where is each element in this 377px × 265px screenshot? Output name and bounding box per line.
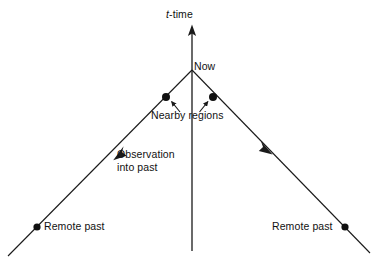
- lightcone-diagram: t-time Now Nearby regions Observationint…: [0, 0, 377, 265]
- remote-past-right-dot: [341, 223, 348, 230]
- observation-into-past-label: Observationinto past: [117, 148, 175, 173]
- apex-label-now: Now: [194, 60, 215, 73]
- axis-suffix: -time: [169, 8, 193, 20]
- remote-past-left-dot: [33, 223, 40, 230]
- nearby-regions-label: Nearby regions: [151, 109, 224, 122]
- nearby-region-right-dot: [209, 93, 217, 101]
- remote-past-right-label: Remote past: [272, 220, 333, 233]
- axis-title-t-time: t-time: [166, 8, 193, 21]
- nearby-region-left-dot: [162, 93, 170, 101]
- remote-past-left-label: Remote past: [44, 220, 105, 233]
- observation-label-line1: Observation: [117, 148, 175, 160]
- observation-label-line2: into past: [117, 161, 158, 173]
- observation-arrow-right-icon: [259, 141, 273, 154]
